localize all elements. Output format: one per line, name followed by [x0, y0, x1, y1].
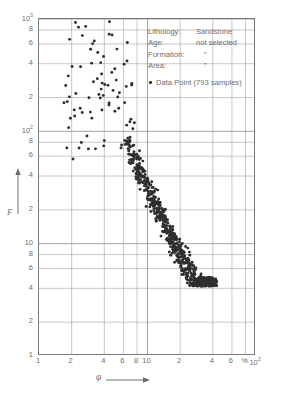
x-tick-6: 6 [120, 357, 124, 365]
lithology-value: Sandstone [196, 26, 232, 37]
x-tick-60: 6 [229, 357, 233, 365]
y-tick-100: 102 [22, 125, 33, 134]
x-tick-8: 8 [134, 357, 138, 365]
x-tick-40: 4 [210, 357, 214, 365]
x-tick-percent-unit: % [241, 357, 248, 365]
x-tick-2: 2 [69, 357, 73, 365]
x-axis-arrow-icon [106, 376, 150, 384]
y-axis-arrow-icon [14, 168, 22, 214]
y-tick-4: 4 [29, 284, 33, 292]
legend-series-label: Data Point (793 samples) [156, 77, 242, 88]
formation-value: ” [204, 49, 207, 60]
x-tick-4: 4 [101, 357, 105, 365]
legend-row-area: Area: ” [148, 60, 268, 71]
x-tick-10: 10 [142, 357, 150, 365]
x-tick-100: 102 [249, 357, 260, 366]
y-tick-1000: 103 [22, 13, 33, 22]
area-value: ” [204, 60, 207, 71]
formation-key: Formation: [148, 49, 184, 60]
legend-row-lithology: Lithology: Sandstone [148, 26, 268, 37]
legend-row-formation: Formation: ” [148, 49, 268, 60]
y-axis-title: F [6, 168, 30, 226]
y-tick-6: 6 [29, 264, 33, 272]
x-axis-symbol: φ [96, 373, 101, 383]
age-value: not selected [196, 37, 237, 48]
x-tick-1: 1 [36, 357, 40, 365]
area-key: Area: [148, 60, 166, 71]
y-tick-200: 2 [29, 93, 33, 101]
legend-box: Lithology: Sandstone Age: not selected F… [148, 26, 268, 89]
data-point-marker-icon [149, 81, 152, 84]
y-tick-80: 8 [29, 137, 33, 145]
y-axis-symbol: F [7, 208, 13, 217]
legend-row-age: Age: not selected [148, 37, 268, 48]
y-tick-10: 10 [25, 239, 33, 247]
y-tick-2: 2 [29, 317, 33, 325]
x-axis-tick-labels: 1246810246%102 [0, 357, 285, 373]
x-tick-20: 2 [177, 357, 181, 365]
legend-series-entry: Data Point (793 samples) [148, 77, 268, 89]
y-tick-400: 4 [29, 59, 33, 67]
figure: 103864210286421086421 1246810246%102 F φ… [0, 0, 285, 406]
y-tick-800: 8 [29, 25, 33, 33]
figure-caption [4, 396, 282, 406]
y-tick-8: 8 [29, 250, 33, 258]
lithology-key: Lithology: [148, 26, 181, 37]
y-tick-60: 6 [29, 151, 33, 159]
age-key: Age: [148, 37, 164, 48]
y-tick-600: 6 [29, 39, 33, 47]
